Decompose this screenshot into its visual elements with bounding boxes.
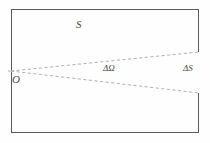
label-origin-O: O (12, 74, 20, 85)
solid-angle-diagram: S O ΔΩ ΔS (0, 0, 210, 143)
lower-ray (11, 71, 199, 93)
label-surface-element-delta-s: ΔS (183, 64, 193, 73)
label-solid-angle-delta-omega: ΔΩ (103, 64, 115, 73)
label-surface-S: S (76, 19, 82, 30)
